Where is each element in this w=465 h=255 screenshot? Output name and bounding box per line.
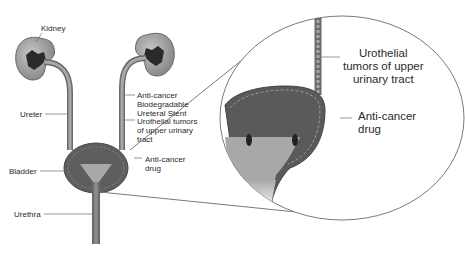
label-urethra: Urethra <box>14 210 41 219</box>
label-kidney: Kidney <box>41 24 65 33</box>
label-drug-zoom: Anti-cancer drug <box>358 110 416 136</box>
label-ureter: Ureter <box>20 110 42 119</box>
label-drug-small: Anti-cancer drug <box>145 155 185 173</box>
label-tumors-zoom: Urothelial tumors of upper urinary tract <box>343 47 424 86</box>
label-tumors-small: Urothelial tumors of upper urinary tract <box>137 117 197 144</box>
label-stent: Anti-cancer Biodegradable Ureteral Stent <box>137 91 189 118</box>
left-kidney <box>16 37 55 80</box>
ureters <box>44 58 146 150</box>
label-bladder: Bladder <box>9 167 37 176</box>
right-kidney <box>135 33 174 76</box>
